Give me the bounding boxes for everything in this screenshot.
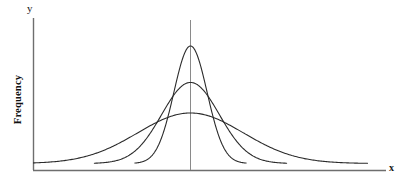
axes-group <box>33 18 386 171</box>
distribution-figure: y x Frequency <box>0 0 404 189</box>
y-axis-tip-label: y <box>27 3 33 14</box>
x-axis-tip-label: x <box>389 163 394 173</box>
y-axis-title: Frequency <box>12 60 23 140</box>
curves-group <box>34 46 368 163</box>
curve-wide-sigma <box>34 113 368 163</box>
plot-canvas <box>0 0 404 189</box>
